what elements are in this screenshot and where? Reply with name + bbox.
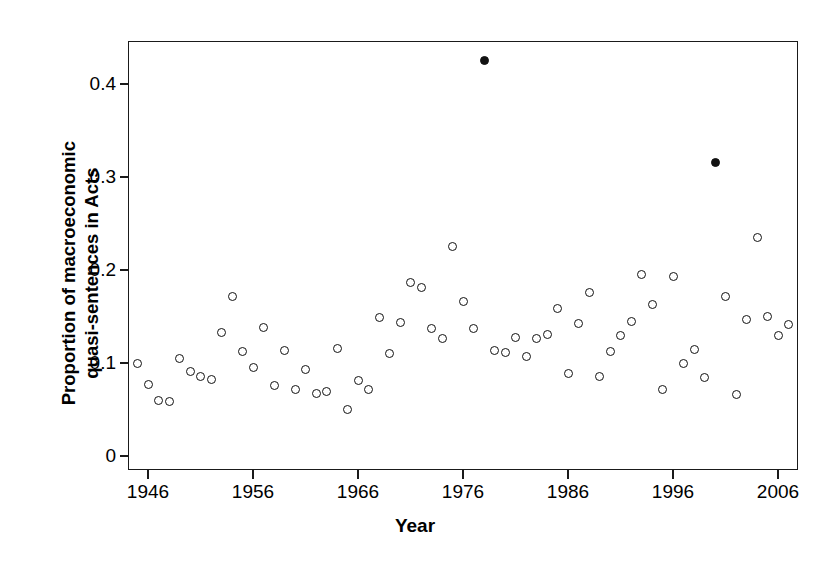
x-axis-tick-mark xyxy=(462,470,464,479)
x-axis: 1946195619661976198619962006 xyxy=(0,0,830,568)
data-point xyxy=(228,292,237,301)
data-point xyxy=(459,297,468,306)
data-point xyxy=(721,292,730,301)
x-axis-tick-label: 1986 xyxy=(547,482,589,501)
x-axis-tick-mark xyxy=(567,470,569,479)
data-point xyxy=(196,372,205,381)
data-point xyxy=(742,315,751,324)
data-point xyxy=(648,300,657,309)
data-point xyxy=(427,324,436,333)
x-axis-tick-label: 1966 xyxy=(337,482,379,501)
scatter-plot-figure: 00.10.20.30.4 19461956196619761986199620… xyxy=(0,0,830,568)
data-point-highlighted xyxy=(711,158,720,167)
data-point xyxy=(144,380,153,389)
data-point xyxy=(375,313,384,322)
data-point xyxy=(291,385,300,394)
data-point xyxy=(417,283,426,292)
x-axis-tick-label: 2006 xyxy=(757,482,799,501)
data-point xyxy=(469,324,478,333)
x-axis-tick-label: 1956 xyxy=(232,482,274,501)
y-axis-title-line-2: quasi-sentences in Acts xyxy=(80,0,103,568)
data-point xyxy=(732,390,741,399)
data-point xyxy=(343,405,352,414)
data-point xyxy=(606,347,615,356)
data-point xyxy=(753,233,762,242)
data-point xyxy=(154,396,163,405)
data-point xyxy=(396,318,405,327)
data-point xyxy=(595,372,604,381)
data-point xyxy=(553,304,562,313)
data-point xyxy=(301,365,310,374)
data-point xyxy=(501,348,510,357)
x-axis-tick-mark xyxy=(777,470,779,479)
data-point xyxy=(763,312,772,321)
x-axis-tick-label: 1946 xyxy=(127,482,169,501)
data-point xyxy=(438,334,447,343)
x-axis-tick-mark xyxy=(147,470,149,479)
data-point xyxy=(627,317,636,326)
data-point xyxy=(249,363,258,372)
data-point xyxy=(186,367,195,376)
data-point xyxy=(312,389,321,398)
data-point xyxy=(207,375,216,384)
y-axis-title-line-1: Proportion of macroeconomic xyxy=(57,0,80,568)
data-point xyxy=(217,328,226,337)
data-point xyxy=(574,319,583,328)
data-point xyxy=(165,397,174,406)
data-point xyxy=(690,345,699,354)
data-point xyxy=(270,381,279,390)
data-point xyxy=(658,385,667,394)
x-axis-tick-mark xyxy=(357,470,359,479)
x-axis-tick-label: 1976 xyxy=(442,482,484,501)
data-point xyxy=(175,354,184,363)
data-point xyxy=(774,331,783,340)
x-axis-title: Year xyxy=(0,516,830,535)
data-point xyxy=(616,331,625,340)
data-point xyxy=(679,359,688,368)
data-point xyxy=(406,278,415,287)
data-point xyxy=(585,288,594,297)
y-axis-title: Proportion of macroeconomic quasi-senten… xyxy=(57,0,103,568)
x-axis-tick-label: 1996 xyxy=(652,482,694,501)
data-point xyxy=(564,369,573,378)
data-point xyxy=(333,344,342,353)
data-point-highlighted xyxy=(480,56,489,65)
data-point xyxy=(354,376,363,385)
x-axis-tick-mark xyxy=(672,470,674,479)
data-point xyxy=(543,330,552,339)
x-axis-tick-mark xyxy=(252,470,254,479)
data-point xyxy=(522,352,531,361)
data-point xyxy=(669,272,678,281)
